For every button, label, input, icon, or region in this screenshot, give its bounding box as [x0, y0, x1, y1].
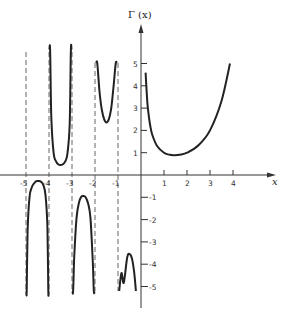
x-tick-label: -3: [66, 179, 74, 188]
y-tick-label: -5: [149, 283, 157, 292]
y-tick-label: -3: [149, 238, 157, 247]
y-tick-label: 3: [133, 104, 138, 113]
gamma-curve-branch: [96, 61, 117, 122]
asymptote-lines: [26, 52, 118, 291]
y-tick-label: 2: [133, 126, 138, 135]
y-tick-label: -2: [149, 216, 157, 225]
x-tick-label: 3: [208, 179, 213, 188]
x-tick-label: -2: [89, 179, 97, 188]
y-tick-label: 1: [133, 149, 138, 158]
axes: Γ (x) x: [0, 9, 278, 308]
x-tick-label: 1: [162, 179, 167, 188]
gamma-curves: [26, 45, 230, 296]
gamma-curve-branch: [73, 196, 95, 294]
x-axis-title: x: [272, 176, 278, 187]
y-tick-label: -1: [149, 193, 157, 202]
gamma-function-plot: Γ (x) x -5-4-3-2-1123454321-1-2-3-4-5: [0, 0, 283, 314]
y-axis-title: Γ (x): [128, 9, 152, 20]
gamma-curve-branch: [119, 254, 136, 291]
y-tick-label: -4: [149, 260, 157, 269]
x-tick-label: -5: [20, 179, 28, 188]
y-axis-arrow-icon: [139, 24, 144, 33]
y-tick-label: 5: [133, 60, 138, 69]
y-tick-label: 4: [133, 82, 138, 91]
x-tick-label: 2: [185, 179, 190, 188]
gamma-curve-branch: [49, 45, 71, 165]
x-tick-label: 4: [231, 179, 236, 188]
gamma-curve-branch: [146, 64, 230, 156]
gamma-curve-branch: [26, 181, 48, 296]
x-tick-label: -1: [112, 179, 120, 188]
